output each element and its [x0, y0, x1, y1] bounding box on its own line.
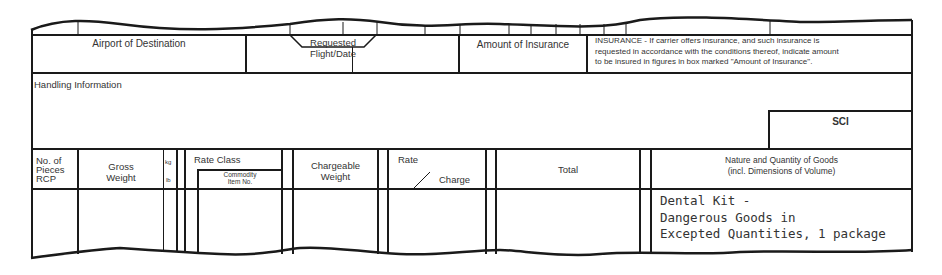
- top-row-bottom-line: [31, 72, 913, 74]
- divider: [176, 149, 178, 252]
- divider: [485, 149, 487, 254]
- amount-of-insurance-field[interactable]: [460, 52, 586, 72]
- gross-weight-header: Gross Weight: [79, 161, 163, 183]
- flight-field[interactable]: [246, 48, 352, 72]
- chargeable-weight-header-line: Chargeable: [294, 160, 377, 171]
- divider: [639, 149, 641, 254]
- chargeable-weight-field[interactable]: [294, 190, 377, 250]
- chargeable-weight-header-line: Weight: [294, 171, 377, 182]
- total-header: Total: [497, 164, 639, 175]
- goods-description[interactable]: Dental Kit - Dangerous Goods in Excepted…: [660, 193, 910, 243]
- handling-information-field[interactable]: [34, 92, 764, 146]
- insurance-notice: INSURANCE - If carrier offers insurance,…: [595, 36, 911, 68]
- gross-weight-field[interactable]: [79, 190, 163, 250]
- lb-unit[interactable]: lb: [166, 175, 171, 186]
- commodity-item-field[interactable]: [199, 190, 281, 250]
- rate-header: Rate: [398, 154, 418, 165]
- pieces-header-line: RCP: [36, 174, 65, 183]
- airport-of-destination-label: Airport of Destination: [33, 38, 245, 49]
- pieces-header: No. of Pieces RCP: [36, 156, 65, 183]
- rate-charge-field[interactable]: [389, 190, 485, 250]
- chargeable-weight-header: Chargeable Weight: [294, 160, 377, 182]
- date-field[interactable]: [353, 48, 458, 72]
- sci-label: SCI: [770, 116, 911, 127]
- commodity-item-header: Commodity Item No.: [199, 172, 281, 185]
- commodity-item-header-line: Item No.: [199, 179, 281, 186]
- insurance-notice-line: requested in accordance with the conditi…: [595, 47, 911, 58]
- goods-description-line: Excepted Quantities, 1 package: [660, 226, 910, 243]
- divider: [377, 149, 379, 254]
- amount-of-insurance-label: Amount of Insurance: [460, 39, 586, 50]
- insurance-notice-line: INSURANCE - If carrier offers insurance,…: [595, 36, 911, 47]
- total-field[interactable]: [497, 190, 639, 250]
- insurance-notice-line: to be insured in figures in box marked "…: [595, 57, 911, 68]
- divider: [184, 149, 186, 252]
- goods-description-line: Dental Kit -: [660, 193, 910, 210]
- handling-information-label: Handling Information: [34, 79, 122, 90]
- gross-weight-header-line: Gross: [79, 161, 163, 172]
- goods-description-line: Dangerous Goods in: [660, 210, 910, 227]
- kg-unit[interactable]: kg: [165, 157, 171, 168]
- pieces-field[interactable]: [33, 190, 77, 250]
- nature-quantity-header: Nature and Quantity of Goods (incl. Dime…: [652, 155, 911, 177]
- rate-class-header: Rate Class: [194, 154, 240, 165]
- nature-quantity-header-line: (incl. Dimensions of Volume): [652, 166, 911, 177]
- divider: [586, 35, 588, 74]
- divider: [163, 149, 164, 252]
- divider: [281, 149, 283, 254]
- nature-quantity-header-line: Nature and Quantity of Goods: [652, 155, 911, 166]
- charge-header: Charge: [439, 174, 470, 185]
- gross-weight-header-line: Weight: [79, 172, 163, 183]
